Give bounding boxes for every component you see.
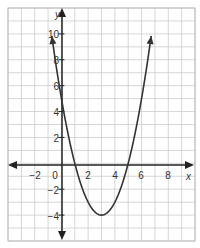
y-tick-label: −4 bbox=[48, 211, 60, 222]
y-axis-down-arrow-icon bbox=[58, 231, 66, 240]
x-tick-label: 4 bbox=[112, 170, 118, 181]
grid-lines bbox=[8, 8, 195, 241]
y-tick-label: −2 bbox=[48, 185, 60, 196]
x-tick-label: 0 bbox=[52, 170, 58, 181]
x-axis-right-arrow-icon bbox=[185, 161, 194, 169]
x-tick-label: 6 bbox=[138, 170, 144, 181]
x-axis-left-arrow-icon bbox=[8, 161, 17, 169]
y-tick-label: 4 bbox=[53, 107, 59, 118]
x-tick-label: 2 bbox=[85, 170, 91, 181]
y-tick-label: 2 bbox=[53, 133, 59, 144]
curve-right-arrow-icon bbox=[147, 36, 154, 44]
x-tick-label: 8 bbox=[165, 170, 171, 181]
coordinate-plane: y x −2 0 2 4 6 8 10 8 6 4 2 −2 −4 bbox=[0, 0, 200, 248]
y-axis-label: y bbox=[54, 9, 61, 20]
x-tick-label: −2 bbox=[29, 170, 41, 181]
y-tick-label: 10 bbox=[48, 29, 60, 40]
x-axis-label: x bbox=[185, 171, 192, 182]
